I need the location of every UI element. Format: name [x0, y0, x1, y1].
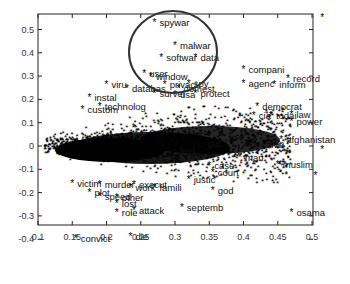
svg-text:*: * [193, 106, 196, 115]
svg-text:*: * [270, 155, 273, 164]
svg-text:*: * [226, 104, 229, 113]
star-marker-icon: * [152, 182, 156, 193]
point-label: god [218, 185, 234, 196]
point-label: afghanistan [286, 134, 335, 145]
svg-text:*: * [266, 123, 269, 132]
star-marker-icon: * [262, 139, 266, 150]
svg-text:*: * [61, 129, 64, 138]
star-marker-icon: * [105, 79, 109, 90]
x-tick-label: 0.2 [100, 232, 113, 242]
svg-text:*: * [188, 104, 191, 113]
data-point: *afghanistan [279, 134, 335, 145]
point-label: attack [139, 205, 165, 216]
x-tick-label: 0.3 [169, 232, 182, 242]
star-marker-icon: * [187, 174, 191, 185]
data-point: *role [115, 207, 138, 218]
y-tick-label: 0.3 [21, 71, 34, 81]
point-label: technolog [105, 101, 146, 112]
star-marker-icon: * [211, 185, 215, 196]
data-point: *live [262, 139, 283, 150]
point-label: man [245, 152, 263, 163]
svg-text:*: * [165, 170, 168, 179]
data-point: *technolog [98, 101, 146, 112]
star-marker-icon: * [320, 144, 324, 155]
point-label: live [269, 139, 283, 150]
star-marker-icon: * [173, 89, 177, 100]
data-point: *softwar [159, 52, 197, 63]
svg-text:*: * [281, 122, 284, 131]
svg-text:*: * [202, 103, 205, 112]
point-label: power [296, 116, 322, 127]
svg-text:*: * [76, 132, 79, 141]
svg-text:*: * [213, 103, 216, 112]
svg-text:*: * [46, 148, 49, 157]
data-point: *god [211, 185, 234, 196]
data-point: *man [238, 152, 263, 163]
svg-text:*: * [142, 168, 145, 177]
data-point: *spywar [152, 17, 189, 28]
data-point: *inform [272, 79, 305, 90]
star-marker-icon: * [242, 64, 246, 75]
star-marker-icon: * [272, 79, 276, 90]
point-label: inform [279, 79, 305, 90]
point-label: protect [201, 88, 230, 99]
svg-text:*: * [184, 113, 187, 122]
svg-text:*: * [189, 163, 192, 172]
star-marker-icon: * [238, 152, 242, 163]
svg-text:*: * [275, 124, 278, 133]
point-label: softwar [166, 52, 197, 63]
data-point: *feel [173, 145, 195, 156]
x-tick-label: 0.5 [306, 232, 319, 242]
star-marker-icon: * [70, 178, 74, 189]
svg-text:*: * [238, 112, 241, 121]
svg-text:*: * [145, 113, 148, 122]
data-point: *septemb [180, 202, 223, 213]
point-label: septemb [187, 202, 223, 213]
data-point: *osama [289, 207, 325, 218]
point-label: muslim [283, 159, 313, 170]
svg-text:*: * [99, 161, 102, 170]
svg-text:*: * [247, 175, 250, 184]
svg-text:*: * [276, 150, 279, 159]
star-marker-icon: * [159, 52, 163, 63]
svg-text:*: * [223, 113, 226, 122]
y-tick-label: 0.5 [21, 25, 34, 35]
point-label: todai [276, 110, 297, 121]
point-label: gul [207, 138, 220, 149]
star-marker-icon: * [180, 202, 184, 213]
y-tick-label: -0.1 [18, 164, 34, 174]
point-label: famili [159, 182, 181, 193]
star-marker-icon: * [313, 170, 317, 181]
star-marker-icon: * [98, 101, 102, 112]
star-marker-icon: * [125, 83, 129, 94]
svg-text:*: * [149, 165, 152, 174]
star-marker-icon: * [87, 187, 91, 198]
point-label: justic [193, 174, 216, 185]
star-marker-icon: * [276, 159, 280, 170]
y-tick-label: -0.2 [18, 188, 34, 198]
svg-text:*: * [138, 120, 141, 129]
star-marker-icon: * [194, 88, 198, 99]
star-marker-icon: * [200, 138, 204, 149]
x-tick-label: 0.25 [132, 232, 150, 242]
svg-text:*: * [166, 115, 169, 124]
x-tick-label: 0.35 [200, 232, 218, 242]
y-tick-label: 0.2 [21, 94, 34, 104]
x-tick-label: 0.15 [63, 232, 81, 242]
svg-text:*: * [131, 164, 134, 173]
svg-text:*: * [159, 163, 162, 172]
point-label: compani [249, 64, 285, 75]
svg-text:*: * [247, 117, 250, 126]
svg-text:*: * [128, 114, 131, 123]
data-point: *malwar [173, 40, 211, 51]
star-marker-icon: * [320, 12, 324, 23]
svg-text:*: * [173, 119, 176, 128]
point-label: role [122, 207, 138, 218]
star-marker-icon: * [115, 207, 119, 218]
data-point: * [320, 144, 324, 155]
data-point: *compani [242, 64, 285, 75]
star-marker-icon: * [81, 104, 85, 115]
star-marker-icon: * [248, 138, 252, 149]
star-marker-icon: * [152, 17, 156, 28]
svg-text:*: * [170, 167, 173, 176]
